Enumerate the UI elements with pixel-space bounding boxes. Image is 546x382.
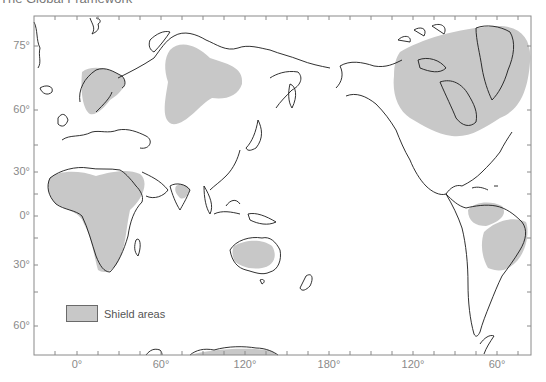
longitude-label-120w: 120° <box>393 358 433 370</box>
shield-canada <box>394 26 531 136</box>
latitude-label-0: 0° <box>2 209 30 221</box>
longitude-label-120e: 120° <box>225 358 265 370</box>
longitude-label-60e: 60° <box>141 358 181 370</box>
legend-swatch-shield <box>66 305 98 322</box>
latitude-label-75n: 75° <box>2 39 30 51</box>
shield-siberia <box>165 44 242 124</box>
latitude-label-30s: 30° <box>2 258 30 270</box>
latitude-label-60s: 60° <box>2 319 30 331</box>
longitude-label-0: 0° <box>57 358 97 370</box>
latitude-label-60n: 60° <box>2 103 30 115</box>
longitude-label-180: 180° <box>309 358 349 370</box>
shield-australia <box>233 241 275 269</box>
shield-baltic <box>81 68 125 115</box>
longitude-label-60w: 60° <box>477 358 517 370</box>
shield-india <box>175 184 190 198</box>
shield-brazil <box>482 219 528 270</box>
legend-label-shield: Shield areas <box>104 308 165 320</box>
latitude-label-30n: 30° <box>2 165 30 177</box>
map-legend: Shield areas <box>66 305 165 322</box>
world-map <box>0 0 546 382</box>
